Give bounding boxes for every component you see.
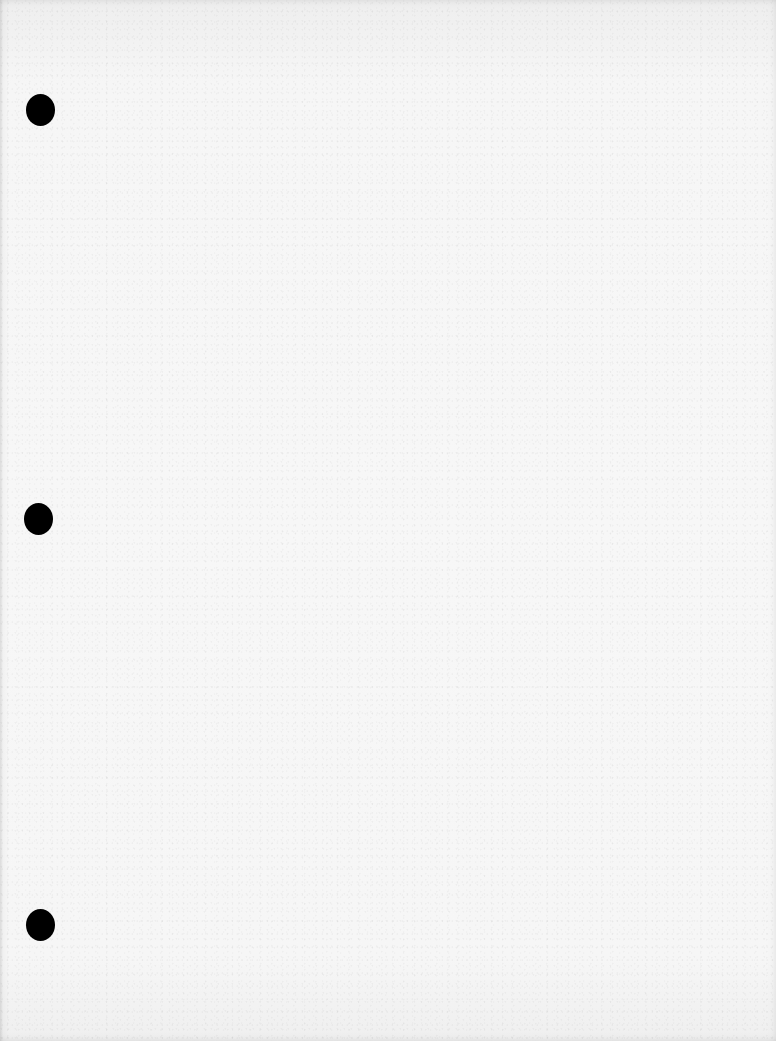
blank-paper-sheet: [0, 0, 776, 1041]
punch-hole-bottom: [26, 909, 55, 941]
punch-hole-top: [26, 94, 55, 126]
paper-left-edge: [0, 0, 3, 1041]
punch-hole-middle: [24, 503, 53, 535]
